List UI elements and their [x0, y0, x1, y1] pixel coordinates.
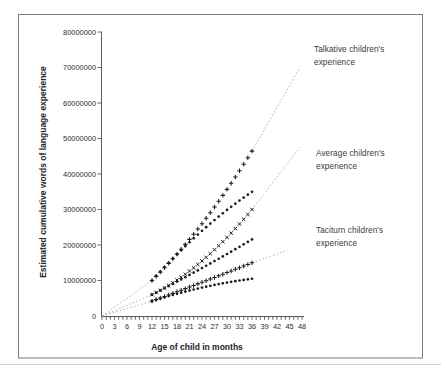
marker-dot	[192, 288, 195, 291]
marker-dot	[176, 253, 179, 256]
y-tick-label: 30000000	[63, 205, 96, 214]
marker-dot	[192, 271, 195, 274]
marker-dot	[230, 250, 233, 253]
marker-dot	[180, 249, 183, 252]
marker-dot	[251, 190, 254, 193]
marker-cross	[217, 244, 220, 247]
marker-dot	[155, 291, 158, 294]
annotation-average: Average children's experience	[316, 147, 385, 173]
marker-cross	[184, 272, 187, 275]
marker-plus	[241, 162, 245, 166]
marker-dot	[167, 285, 170, 288]
x-tick-label: 9	[137, 322, 141, 331]
marker-dot	[180, 291, 183, 294]
y-tick-label: 80000000	[63, 28, 96, 37]
marker-cross	[204, 256, 207, 259]
marker-plus	[196, 227, 200, 231]
marker-dot	[246, 241, 249, 244]
marker-plus	[208, 277, 212, 281]
marker-cross	[234, 227, 237, 230]
marker-cross	[250, 208, 253, 211]
x-tick-label: 45	[285, 322, 293, 331]
x-tick-label: 27	[210, 322, 218, 331]
marker-dot	[163, 287, 166, 290]
annotation-talkative: Talkative children's experience	[314, 43, 384, 69]
chart-figure: 0100000002000000030000000400000005000000…	[0, 0, 441, 376]
marker-dot	[196, 287, 199, 290]
leader-line-talkative-projected	[102, 281, 152, 317]
marker-dot	[159, 289, 162, 292]
marker-dot	[159, 297, 162, 300]
marker-dot	[163, 296, 166, 299]
marker-dot	[209, 222, 212, 225]
marker-dot	[226, 281, 229, 284]
marker-plus	[233, 175, 237, 179]
marker-plus	[204, 216, 208, 220]
x-tick-label: 21	[185, 322, 193, 331]
marker-plus	[216, 199, 220, 203]
marker-plus	[191, 232, 195, 236]
y-tick-label: 40000000	[63, 170, 96, 179]
y-axis-title: Estimated cumulative words of language e…	[38, 66, 48, 278]
marker-plus	[196, 282, 200, 286]
marker-dot	[226, 253, 229, 256]
x-tick-label: 15	[160, 322, 168, 331]
marker-dot	[221, 282, 224, 285]
series-talkative-projected	[102, 68, 300, 317]
x-tick-label: 18	[173, 322, 181, 331]
marker-plus	[187, 285, 191, 289]
marker-plus	[225, 187, 229, 191]
marker-dot	[155, 275, 158, 278]
marker-plus	[250, 149, 254, 153]
x-tick-label: 48	[298, 322, 306, 331]
marker-plus	[233, 267, 237, 271]
marker-dot	[151, 300, 154, 303]
x-tick-label: 33	[235, 322, 243, 331]
marker-dot	[188, 289, 191, 292]
marker-dot	[176, 280, 179, 283]
marker-cross	[221, 240, 224, 243]
marker-dot	[213, 284, 216, 287]
marker-plus	[212, 275, 216, 279]
marker-plus	[208, 210, 212, 214]
marker-dot	[242, 279, 245, 282]
marker-plus	[212, 205, 216, 209]
marker-plus	[200, 280, 204, 284]
y-tick-label: 20000000	[63, 241, 96, 250]
marker-dot	[188, 274, 191, 277]
marker-dot	[242, 196, 245, 199]
x-tick-label: 6	[125, 322, 129, 331]
marker-cross	[196, 263, 199, 266]
axes	[102, 32, 305, 317]
x-tick-label: 39	[260, 322, 268, 331]
marker-plus	[246, 262, 250, 266]
marker-plus	[216, 274, 220, 278]
series-average-projected	[102, 147, 300, 316]
marker-dot	[251, 238, 254, 241]
y-tick-label: 10000000	[63, 276, 96, 285]
marker-dot	[217, 257, 220, 260]
marker-plus	[246, 156, 250, 160]
marker-dot	[238, 199, 241, 202]
marker-dot	[213, 260, 216, 263]
marker-plus	[221, 193, 225, 197]
leader-line-taciturn-projected	[102, 301, 152, 316]
x-tick-label: 36	[248, 322, 256, 331]
marker-dot	[192, 237, 195, 240]
marker-cross	[213, 248, 216, 251]
marker-dot	[230, 205, 233, 208]
x-tick-label: 3	[112, 322, 116, 331]
marker-plus	[200, 222, 204, 226]
marker-plus	[225, 270, 229, 274]
marker-dot	[217, 283, 220, 286]
extension-line-taciturn-projected	[252, 250, 287, 262]
marker-cross	[229, 231, 232, 234]
marker-cross	[242, 218, 245, 221]
marker-dot	[238, 245, 241, 248]
marker-dot	[209, 262, 212, 265]
y-tick-label: 60000000	[63, 99, 96, 108]
marker-dot	[226, 209, 229, 212]
marker-dot	[221, 255, 224, 258]
x-tick-label: 30	[223, 322, 231, 331]
marker-dot	[251, 277, 254, 280]
